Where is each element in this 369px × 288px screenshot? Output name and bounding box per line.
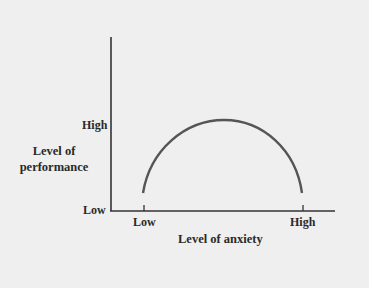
x-tick-high-label: High: [290, 215, 315, 230]
x-tick-low-label: Low: [133, 215, 156, 230]
performance-curve: [143, 120, 302, 193]
y-axis-title-line1: Level of: [8, 143, 100, 159]
x-axis-title: Level of anxiety: [178, 232, 263, 247]
y-axis-title-line2: performance: [8, 159, 100, 175]
y-axis-title: Level of performance: [8, 143, 100, 175]
y-tick-low: Low: [83, 203, 106, 218]
y-tick-high: High: [82, 118, 107, 133]
